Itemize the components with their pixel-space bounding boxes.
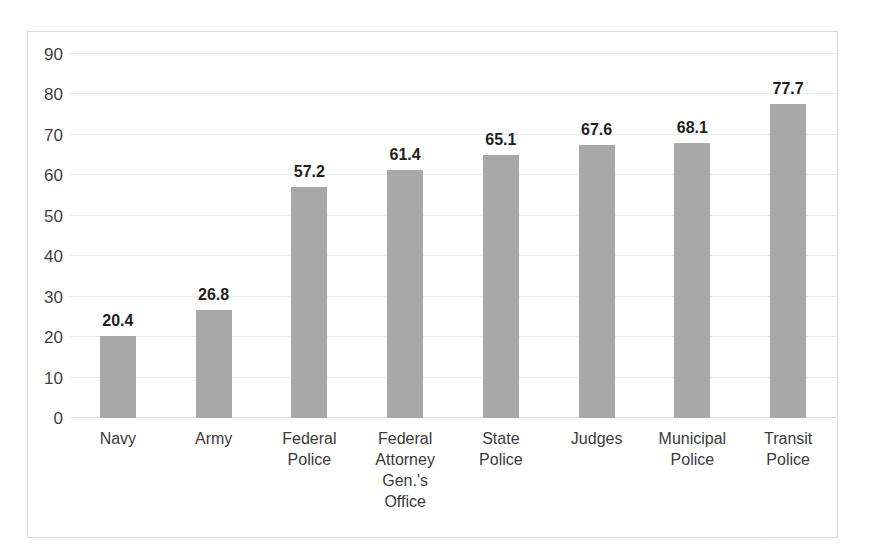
x-axis-label-line: Transit: [733, 428, 843, 449]
plot-area: 20.426.857.261.465.167.668.177.7: [70, 54, 836, 418]
bar[interactable]: [196, 310, 232, 418]
y-tick-label-0: 0: [29, 410, 63, 427]
bar[interactable]: [387, 170, 423, 418]
y-tick-label-40: 40: [29, 248, 63, 265]
bar-value-label: 61.4: [390, 147, 421, 163]
bar-value-label: 68.1: [677, 120, 708, 136]
y-tick-label-80: 80: [29, 86, 63, 103]
x-axis-label-line: Police: [637, 449, 747, 470]
x-axis-label-line: Police: [254, 449, 364, 470]
x-axis-label: StatePolice: [446, 428, 556, 470]
x-axis-label: MunicipalPolice: [637, 428, 747, 470]
x-axis-label-line: Judges: [542, 428, 652, 449]
x-axis: NavyArmyFederalPoliceFederalAttorneyGen.…: [70, 428, 836, 528]
x-axis-label: FederalPolice: [254, 428, 364, 470]
x-axis-label: Navy: [63, 428, 173, 449]
bar-slot: 77.7: [740, 54, 836, 418]
x-axis-label-line: Office: [350, 491, 460, 512]
x-axis-label-line: Army: [159, 428, 269, 449]
bar-slot: 61.4: [357, 54, 453, 418]
bar-value-label: 77.7: [773, 81, 804, 97]
x-axis-label-line: Attorney: [350, 449, 460, 470]
y-tick-label-70: 70: [29, 126, 63, 143]
y-tick-label-90: 90: [29, 46, 63, 63]
chart-page: 20.426.857.261.465.167.668.177.7 0102030…: [0, 0, 870, 560]
bar[interactable]: [674, 143, 710, 418]
bar-slot: 65.1: [453, 54, 549, 418]
bar-slot: 57.2: [262, 54, 358, 418]
bar-slot: 68.1: [645, 54, 741, 418]
bar[interactable]: [770, 104, 806, 418]
bar-value-label: 65.1: [485, 132, 516, 148]
x-axis-label: TransitPolice: [733, 428, 843, 470]
bar-slot: 67.6: [549, 54, 645, 418]
x-axis-label: Judges: [542, 428, 652, 449]
bar[interactable]: [579, 145, 615, 418]
x-axis-label-line: Police: [733, 449, 843, 470]
x-axis-label-line: Municipal: [637, 428, 747, 449]
bar-value-label: 57.2: [294, 164, 325, 180]
x-axis-label-line: Navy: [63, 428, 173, 449]
bar[interactable]: [483, 155, 519, 418]
y-tick-label-50: 50: [29, 207, 63, 224]
x-axis-label: Army: [159, 428, 269, 449]
y-tick-label-10: 10: [29, 369, 63, 386]
bar-value-label: 67.6: [581, 122, 612, 138]
bar[interactable]: [291, 187, 327, 418]
bar[interactable]: [100, 336, 136, 419]
bar-slot: 26.8: [166, 54, 262, 418]
bar-slot: 20.4: [70, 54, 166, 418]
y-axis: 0102030405060708090: [27, 54, 63, 418]
x-axis-label-line: Federal: [350, 428, 460, 449]
x-axis-label-line: State: [446, 428, 556, 449]
bar-value-label: 20.4: [102, 313, 133, 329]
y-tick-label-30: 30: [29, 288, 63, 305]
y-tick-label-20: 20: [29, 329, 63, 346]
x-axis-label-line: Federal: [254, 428, 364, 449]
x-axis-label-line: Gen.'s: [350, 470, 460, 491]
x-axis-label-line: Police: [446, 449, 556, 470]
bar-value-label: 26.8: [198, 287, 229, 303]
y-tick-label-60: 60: [29, 167, 63, 184]
x-axis-label: FederalAttorneyGen.'sOffice: [350, 428, 460, 512]
